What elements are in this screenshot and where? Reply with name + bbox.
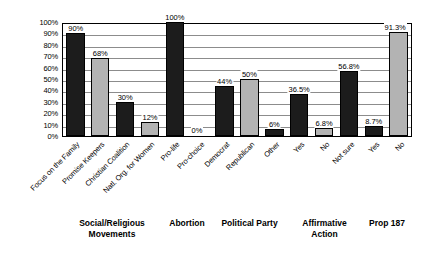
category-label-slot: Yes	[287, 138, 312, 200]
category-label-slot: Not sure	[337, 138, 362, 200]
group-label: Prop 187	[348, 218, 426, 229]
category-label: No	[318, 140, 331, 153]
bar-slot: 91.3%	[386, 24, 411, 136]
y-axis-tick-label: 0%	[18, 133, 58, 141]
bar-slot: 68%	[88, 24, 113, 136]
plot-area: 90%68%30%12%100%0%44%50%6%36.5%6.8%56.8%…	[62, 23, 412, 137]
bar-slot: 6.8%	[312, 24, 337, 136]
category-axis-labels: Focus on the FamilyPromise KeepersChrist…	[62, 138, 412, 200]
bar: 56.8%	[340, 71, 358, 136]
y-axis-tick-label: 90%	[18, 30, 58, 38]
bar-slot: 100%	[162, 24, 187, 136]
bar-slot: 8.7%	[361, 24, 386, 136]
category-label: No	[393, 140, 406, 153]
bar-slot: 12%	[138, 24, 163, 136]
bar-value-label: 6.8%	[314, 119, 333, 128]
category-label-slot: Republican	[237, 138, 262, 200]
bar-value-label: 56.8%	[337, 62, 360, 71]
bar: 50%	[240, 79, 258, 136]
bar-slot: 36.5%	[287, 24, 312, 136]
bar: 30%	[116, 102, 134, 136]
group-axis-labels: Social/Religious MovementsAbortionPoliti…	[62, 218, 412, 250]
bar: 90%	[66, 33, 84, 136]
bar-value-label: 6%	[268, 120, 281, 129]
y-axis-tick-label: 50%	[18, 76, 58, 84]
bar-value-label: 8.7%	[364, 117, 383, 126]
bar: 8.7%	[365, 126, 383, 136]
bar: 36.5%	[290, 94, 308, 136]
bar-value-label: 68%	[92, 49, 109, 58]
bar: 68%	[91, 58, 109, 136]
category-label: Yes	[366, 140, 381, 155]
bar-slot: 6%	[262, 24, 287, 136]
category-label: Yes	[291, 140, 306, 155]
y-axis-tick-label: 100%	[18, 19, 58, 27]
category-label-slot: Other	[262, 138, 287, 200]
y-axis-tick-label: 80%	[18, 42, 58, 50]
bar-chart: 100%90%80%70%60%50%40%30%20%10%0% 90%68%…	[0, 0, 435, 260]
bar: 100%	[166, 22, 184, 136]
y-axis-tick-label: 30%	[18, 99, 58, 107]
bar-series: 90%68%30%12%100%0%44%50%6%36.5%6.8%56.8%…	[63, 24, 411, 136]
bar: 6.8%	[315, 128, 333, 136]
bar-slot: 44%	[212, 24, 237, 136]
bar-value-label: 12%	[141, 113, 158, 122]
bar-value-label: 0%	[191, 126, 204, 135]
category-label: Other	[262, 140, 281, 159]
bar-slot: 90%	[63, 24, 88, 136]
category-label-slot: No	[387, 138, 412, 200]
y-axis-tick-label: 40%	[18, 87, 58, 95]
bar: 91.3%	[389, 32, 407, 136]
y-axis-tick-label: 10%	[18, 122, 58, 130]
bar-slot: 30%	[113, 24, 138, 136]
bar-value-label: 91.3%	[384, 23, 407, 32]
bar-slot: 56.8%	[336, 24, 361, 136]
bar-value-label: 50%	[241, 70, 258, 79]
bar-slot: 50%	[237, 24, 262, 136]
y-axis-tick-label: 70%	[18, 53, 58, 61]
bar: 12%	[141, 122, 159, 136]
bar: 44%	[215, 86, 233, 136]
y-axis-tick-label: 20%	[18, 110, 58, 118]
category-label: Pro-life	[158, 140, 181, 163]
bar-value-label: 90%	[67, 24, 84, 33]
category-label-slot: No	[312, 138, 337, 200]
bar: 6%	[265, 129, 283, 136]
y-axis-tick-label: 60%	[18, 65, 58, 73]
bar-value-label: 36.5%	[288, 85, 311, 94]
category-label-slot: Natl. Org. for Women	[137, 138, 162, 200]
y-axis: 100%90%80%70%60%50%40%30%20%10%0%	[18, 19, 58, 136]
category-label-slot: Yes	[362, 138, 387, 200]
bar-value-label: 100%	[164, 13, 185, 22]
bar-value-label: 44%	[216, 77, 233, 86]
bar-slot: 0%	[187, 24, 212, 136]
bar-value-label: 30%	[117, 93, 134, 102]
